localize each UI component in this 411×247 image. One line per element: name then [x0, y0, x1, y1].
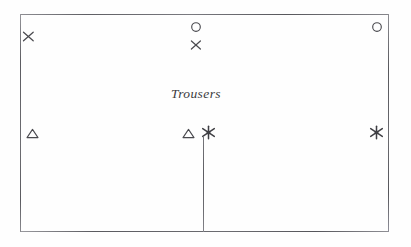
diagram-canvas: Trousers [0, 0, 411, 247]
frame-edge-top [20, 14, 389, 15]
notch-x-marker [22, 30, 35, 43]
frame-edge-right [388, 14, 389, 232]
pattern-piece-label: Trousers [171, 86, 221, 102]
frame-edge-bottom [20, 231, 389, 232]
asterisk-marker [369, 125, 384, 140]
triangle-marker [182, 128, 195, 139]
circle-marker [371, 21, 383, 33]
frame-edge-left [20, 14, 21, 232]
triangle-marker [26, 128, 39, 139]
asterisk-marker [201, 125, 216, 140]
notch-x-marker [190, 39, 202, 51]
centre-fold-line [203, 137, 204, 232]
circle-marker [190, 21, 202, 33]
